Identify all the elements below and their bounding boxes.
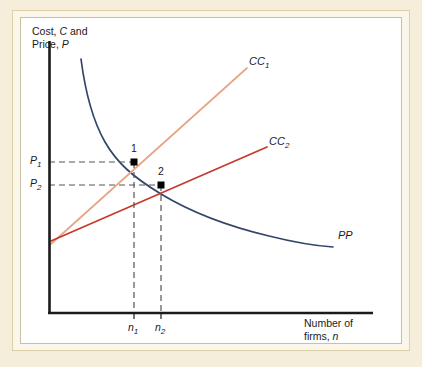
y-tick-label-p2-sub: 2: [37, 183, 41, 192]
y-axis-title: Cost, C and Price, P: [32, 25, 87, 51]
series-label-pp: PP: [338, 229, 353, 241]
x-tick-label-n1: n1: [128, 321, 138, 336]
series-label-cc1-sub: 1: [265, 61, 269, 70]
figure-container: Cost, C and Price, P Number of firms, n …: [0, 0, 422, 367]
y-tick-label-p1-sub: 1: [37, 160, 41, 169]
y-tick-label-p1-base: P: [30, 154, 37, 166]
marker-label-1: 1: [131, 142, 137, 154]
series-label-cc1: CC1: [249, 55, 269, 70]
y-tick-label-p2-base: P: [30, 177, 37, 189]
y-axis-title-word-cost: Cost,: [32, 25, 57, 37]
y-tick-label-p1: P1: [30, 154, 41, 169]
y-axis-title-symbol-c: C: [59, 25, 67, 37]
series-label-cc2: CC2: [269, 135, 289, 150]
x-axis-title: Number of firms, n: [304, 317, 353, 343]
x-tick-label-n2: n2: [155, 321, 165, 336]
x-tick-label-n1-sub: 1: [134, 327, 138, 336]
series-label-cc1-base: CC: [249, 55, 265, 67]
y-axis-title-word-price: Price,: [32, 38, 59, 50]
y-axis-title-symbol-p: P: [62, 38, 69, 50]
series-pp-curve: [81, 59, 333, 247]
x-axis-title-line1: Number of: [304, 317, 353, 329]
x-tick-label-n2-sub: 2: [161, 327, 165, 336]
marker-point-1: [131, 159, 138, 166]
x-axis-title-symbol-n: n: [333, 330, 339, 342]
series-cc1-line: [51, 68, 247, 244]
chart-card: Cost, C and Price, P Number of firms, n …: [20, 17, 402, 344]
y-tick-label-p2: P2: [30, 177, 41, 192]
series-label-cc2-base: CC: [269, 135, 285, 147]
x-axis-title-word-firms: firms,: [304, 330, 330, 342]
series-label-cc2-sub: 2: [285, 141, 289, 150]
marker-label-2: 2: [158, 165, 164, 177]
marker-point-2: [158, 182, 165, 189]
chart-plot-svg: [21, 18, 402, 344]
y-axis-title-word-and: and: [70, 25, 88, 37]
